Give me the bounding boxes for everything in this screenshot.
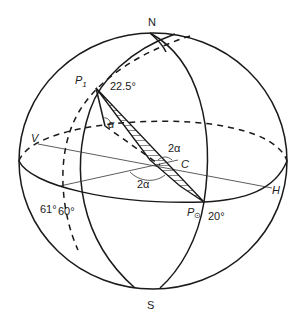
label-2alpha-lower: 2α [137,178,150,190]
horizon-front [19,161,287,202]
label-angle-top: 22.5° [110,80,136,92]
label-61: 61° [40,203,57,215]
celestial-sphere-diagram: N S P1 22.5° α 2α C 2α V H 61° 60° P⊙ 20… [0,0,298,324]
hatched-sliver [96,88,204,202]
label-c: C [181,158,189,170]
label-p1: P1 [75,74,87,89]
label-north: N [148,16,156,28]
label-20: 20° [208,210,225,222]
label-psun: P⊙ [187,206,201,220]
label-60: 60° [58,205,75,217]
label-south: S [147,299,154,311]
label-alpha: α [108,118,115,130]
label-h: H [272,184,280,196]
label-2alpha-upper: 2α [168,142,181,154]
